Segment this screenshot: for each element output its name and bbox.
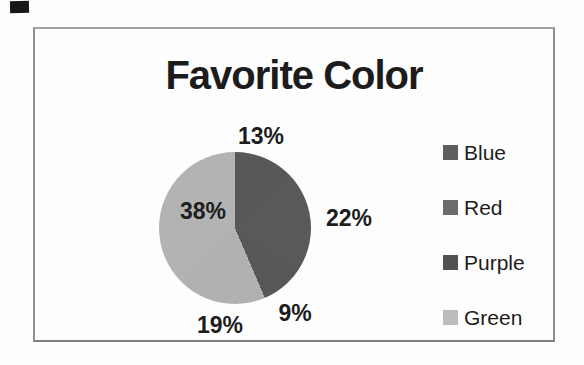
chart-title: Favorite Color <box>35 53 553 98</box>
scan-artifact-mark <box>10 1 29 13</box>
legend-label-blue: Blue <box>464 141 506 165</box>
legend-label-green: Green <box>464 306 522 330</box>
legend-swatch-blue <box>443 145 458 160</box>
legend-item-blue: Blue <box>443 141 506 165</box>
legend-label-purple: Purple <box>464 251 525 275</box>
pie-label-purple-9pct: 9% <box>278 300 311 327</box>
legend-label-red: Red <box>464 196 503 220</box>
legend-swatch-green <box>443 310 458 325</box>
pie-label-blue-13pct: 13% <box>238 123 284 150</box>
legend-item-green: Green <box>443 306 522 330</box>
pie-label-green-38pct: 38% <box>180 198 226 225</box>
chart-frame: Favorite Color 13% 22% 9% 19% 38% Blue R… <box>33 27 555 342</box>
pie-label-red-22pct: 22% <box>326 205 372 232</box>
pie-chart <box>159 152 311 304</box>
legend-item-red: Red <box>443 196 503 220</box>
legend-swatch-red <box>443 200 458 215</box>
legend-swatch-purple <box>443 255 458 270</box>
pie-label-19pct: 19% <box>197 312 243 339</box>
scanned-page: { "chart": { "title": "Favorite Color", … <box>0 0 584 365</box>
legend-item-purple: Purple <box>443 251 525 275</box>
